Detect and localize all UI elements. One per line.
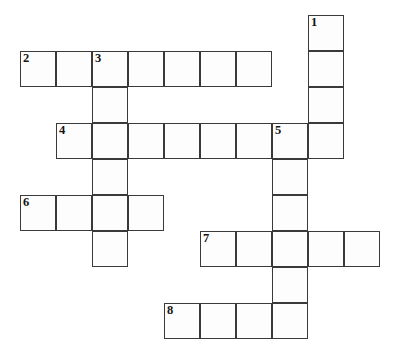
crossword-cell[interactable] xyxy=(92,195,128,231)
crossword-cell[interactable] xyxy=(92,87,128,123)
crossword-cell[interactable] xyxy=(200,303,236,339)
clue-number-6: 6 xyxy=(23,196,29,209)
crossword-cell[interactable] xyxy=(128,123,164,159)
crossword-cell[interactable] xyxy=(164,123,200,159)
crossword-cell[interactable] xyxy=(200,123,236,159)
crossword-cell[interactable] xyxy=(308,87,344,123)
crossword-cell[interactable]: 4 xyxy=(56,123,92,159)
crossword-cell[interactable] xyxy=(200,51,236,87)
crossword-cell[interactable]: 2 xyxy=(20,51,56,87)
crossword-cell[interactable] xyxy=(344,231,380,267)
crossword-cell[interactable]: 3 xyxy=(92,51,128,87)
crossword-cell[interactable] xyxy=(272,303,308,339)
crossword-cell[interactable] xyxy=(308,123,344,159)
crossword-cell[interactable] xyxy=(128,51,164,87)
crossword-cell[interactable] xyxy=(308,231,344,267)
clue-number-4: 4 xyxy=(59,124,65,137)
clue-number-8: 8 xyxy=(167,304,173,317)
crossword-cell[interactable] xyxy=(236,51,272,87)
crossword-cell[interactable] xyxy=(164,51,200,87)
crossword-cell[interactable]: 7 xyxy=(200,231,236,267)
crossword-cell[interactable] xyxy=(56,195,92,231)
crossword-cell[interactable] xyxy=(92,159,128,195)
crossword-cell[interactable] xyxy=(92,123,128,159)
crossword-cell[interactable]: 5 xyxy=(272,123,308,159)
crossword-cell[interactable] xyxy=(128,195,164,231)
crossword-cell[interactable] xyxy=(236,231,272,267)
clue-number-7: 7 xyxy=(203,232,209,245)
crossword-cell[interactable] xyxy=(236,123,272,159)
crossword-cell[interactable] xyxy=(272,195,308,231)
crossword-cell[interactable] xyxy=(272,231,308,267)
crossword-cell[interactable]: 6 xyxy=(20,195,56,231)
clue-number-1: 1 xyxy=(311,16,317,29)
crossword-grid: 12345678 xyxy=(0,0,406,363)
clue-number-5: 5 xyxy=(275,124,281,137)
crossword-cell[interactable] xyxy=(56,51,92,87)
crossword-cell[interactable]: 1 xyxy=(308,15,344,51)
clue-number-3: 3 xyxy=(95,52,101,65)
crossword-cell[interactable] xyxy=(272,159,308,195)
clue-number-2: 2 xyxy=(23,52,29,65)
crossword-cell[interactable] xyxy=(92,231,128,267)
crossword-cell[interactable] xyxy=(272,267,308,303)
crossword-cell[interactable] xyxy=(236,303,272,339)
crossword-cell[interactable] xyxy=(308,51,344,87)
crossword-cell[interactable]: 8 xyxy=(164,303,200,339)
